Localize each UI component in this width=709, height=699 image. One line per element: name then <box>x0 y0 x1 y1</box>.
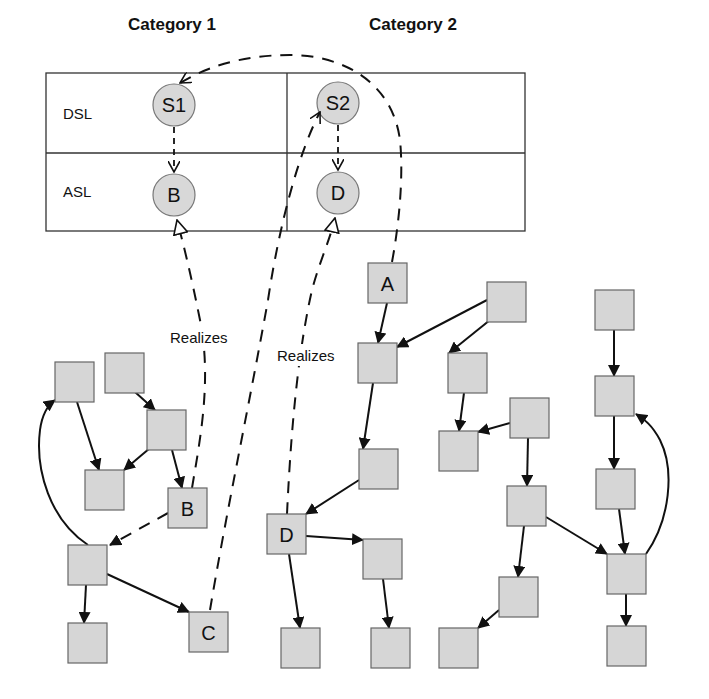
box-r4[interactable] <box>510 398 549 438</box>
box-c[interactable]: C <box>189 612 228 652</box>
edge-l2-l3 <box>135 392 155 410</box>
edge-l3-l4 <box>124 448 150 470</box>
category-1-header: Category 1 <box>128 15 216 34</box>
row-label-dsl: DSL <box>63 105 92 122</box>
b-to-hub-dashed-link <box>110 513 168 545</box>
edge-r4-r5 <box>527 438 528 486</box>
box-t2[interactable] <box>595 376 634 416</box>
category-2-header: Category 2 <box>369 15 457 34</box>
t4-to-t2-curved-edge <box>636 414 668 554</box>
edge-r2-r3 <box>459 393 464 431</box>
node-b-abstract-label: B <box>167 184 180 206</box>
node-s2-label: S2 <box>326 92 350 114</box>
node-d-abstract-label: D <box>331 182 345 204</box>
box-l2[interactable] <box>105 353 144 393</box>
edge-a-m1 <box>378 303 387 343</box>
box-d[interactable]: D <box>267 514 306 554</box>
edges <box>77 300 626 628</box>
box-d-label: D <box>279 524 293 546</box>
node-s1-label: S1 <box>162 94 186 116</box>
box-r5[interactable] <box>507 486 546 526</box>
architecture-diagram: Category 1 Category 2 DSL ASL S1 B S2 D … <box>0 0 709 699</box>
box-l4[interactable] <box>85 470 124 510</box>
edge-m1-m2 <box>363 383 373 449</box>
node-s2[interactable]: S2 <box>317 82 359 124</box>
box-m4[interactable] <box>281 628 320 668</box>
realizes-label-2: Realizes <box>277 347 335 364</box>
box-t4[interactable] <box>607 554 646 594</box>
edge-m3-m5 <box>383 579 389 628</box>
node-b-abstract[interactable]: B <box>153 174 195 216</box>
component-boxes: B C A D <box>55 263 646 668</box>
box-r6[interactable] <box>499 577 538 617</box>
hub-to-l1-curved-edge <box>39 400 88 545</box>
edge-r5-t4 <box>546 517 607 554</box>
edge-r1-m1 <box>397 300 487 347</box>
edge-t3-t4 <box>619 509 625 554</box>
edge-l5-l6 <box>84 585 86 623</box>
node-s1[interactable]: S1 <box>153 84 195 126</box>
edge-m2-d <box>306 480 359 514</box>
box-r1[interactable] <box>487 282 526 322</box>
box-l1[interactable] <box>55 362 94 402</box>
edge-r6-r7 <box>478 610 499 628</box>
edge-r4-r3 <box>478 423 510 432</box>
box-b-label: B <box>181 498 194 520</box>
box-t5[interactable] <box>607 626 646 666</box>
edge-d-m4 <box>289 554 300 628</box>
box-t3[interactable] <box>596 469 635 509</box>
box-m2[interactable] <box>359 449 398 489</box>
edge-l5-c <box>107 574 189 612</box>
box-a[interactable]: A <box>368 263 407 303</box>
edge-l3-b <box>172 450 182 488</box>
box-m5[interactable] <box>371 628 410 668</box>
node-d-abstract[interactable]: D <box>317 172 359 214</box>
box-r2[interactable] <box>448 353 487 393</box>
box-t1[interactable] <box>595 290 634 330</box>
edge-r5-r6 <box>518 526 524 577</box>
edge-l1-l4 <box>77 402 99 470</box>
box-r3[interactable] <box>439 431 478 471</box>
edge-d-m3 <box>306 536 363 540</box>
edge-r1-r2 <box>449 320 490 353</box>
box-m1[interactable] <box>358 343 397 383</box>
box-l6[interactable] <box>68 623 107 663</box>
box-c-label: C <box>201 622 215 644</box>
box-a-label: A <box>381 273 395 295</box>
box-m3[interactable] <box>363 539 402 579</box>
realizes-label-1: Realizes <box>170 329 228 346</box>
box-r7[interactable] <box>439 628 478 668</box>
box-b[interactable]: B <box>168 488 207 528</box>
box-l3[interactable] <box>147 410 186 450</box>
box-l5-hub[interactable] <box>68 545 107 585</box>
row-label-asl: ASL <box>63 183 91 200</box>
